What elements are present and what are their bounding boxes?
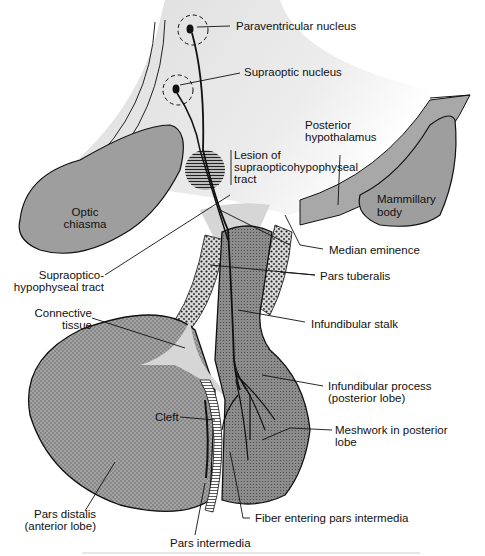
label-paraventricular-nucleus: Paraventricular nucleus xyxy=(236,20,356,33)
label-connective-2: tissue xyxy=(20,319,92,332)
label-infundibular-stalk: Infundibular stalk xyxy=(311,318,398,331)
label-pars-intermedia: Pars intermedia xyxy=(170,537,251,550)
label-optic-2: chiasma xyxy=(50,218,120,231)
label-supraoptico-tract-2: hypophyseal tract xyxy=(0,281,104,294)
label-posterior-hypothalamus-2: hypothalamus xyxy=(305,131,377,144)
label-mammillary-1: Mammillary xyxy=(377,193,436,206)
pituitary-diagram: Paraventricular nucleus Supraoptic nucle… xyxy=(0,0,485,556)
label-supraoptic-nucleus: Supraoptic nucleus xyxy=(244,66,342,79)
label-lesion-3: tract xyxy=(234,173,256,186)
label-cleft: Cleft xyxy=(155,411,179,424)
label-meshwork-2: lobe xyxy=(335,436,357,449)
label-pars-tuberalis: Pars tuberalis xyxy=(320,270,390,283)
label-mammillary-2: body xyxy=(377,206,402,219)
label-pars-distalis-2: (anterior lobe) xyxy=(10,520,96,533)
label-median-eminence: Median eminence xyxy=(329,244,420,257)
label-infundibular-process-2: (posterior lobe) xyxy=(328,392,405,405)
label-fiber-entering: Fiber entering pars intermedia xyxy=(255,512,408,525)
